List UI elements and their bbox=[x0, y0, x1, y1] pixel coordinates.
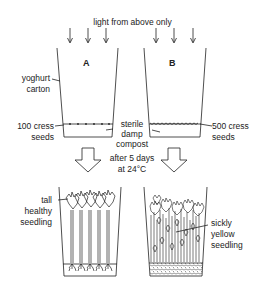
compost-line2: damp bbox=[110, 129, 154, 139]
carton-a-label: A bbox=[83, 58, 90, 68]
compost-line1: sterile bbox=[110, 119, 154, 129]
light-arrows-a-icon bbox=[68, 28, 109, 43]
compost-line3: compost bbox=[108, 139, 156, 149]
leader-carton bbox=[52, 79, 60, 81]
healthy-line1: tall bbox=[8, 195, 52, 205]
sickly-seedlings-icon bbox=[144, 187, 208, 276]
result-arrow-b-icon bbox=[161, 148, 187, 172]
healthy-line3: seedling bbox=[8, 217, 52, 227]
title-light-from-above: light from above only bbox=[80, 17, 185, 27]
seeds-a-line1: 100 cress bbox=[4, 121, 54, 131]
healthy-line2: healthy bbox=[8, 206, 52, 216]
carton-b-label: B bbox=[169, 58, 176, 68]
leader-seeds-b bbox=[200, 124, 212, 126]
sickly-line3: seedling bbox=[211, 240, 243, 250]
healthy-seedlings-icon bbox=[58, 187, 121, 276]
label-carton: carton bbox=[10, 84, 50, 94]
sickly-line1: sickly bbox=[211, 218, 232, 228]
seeds-b-line2: seeds bbox=[212, 132, 235, 142]
leader-seeds-a bbox=[55, 125, 64, 126]
condition-line2: at 24°C bbox=[100, 164, 164, 174]
sickly-line2: yellow bbox=[211, 229, 235, 239]
label-yoghurt: yoghurt bbox=[10, 73, 50, 83]
seeds-b-line1: 500 cress bbox=[212, 121, 249, 131]
light-arrows-b-icon bbox=[154, 28, 196, 43]
result-arrow-a-icon bbox=[75, 148, 101, 172]
condition-line1: after 5 days bbox=[100, 153, 164, 163]
seeds-a-line2: seeds bbox=[4, 132, 54, 142]
